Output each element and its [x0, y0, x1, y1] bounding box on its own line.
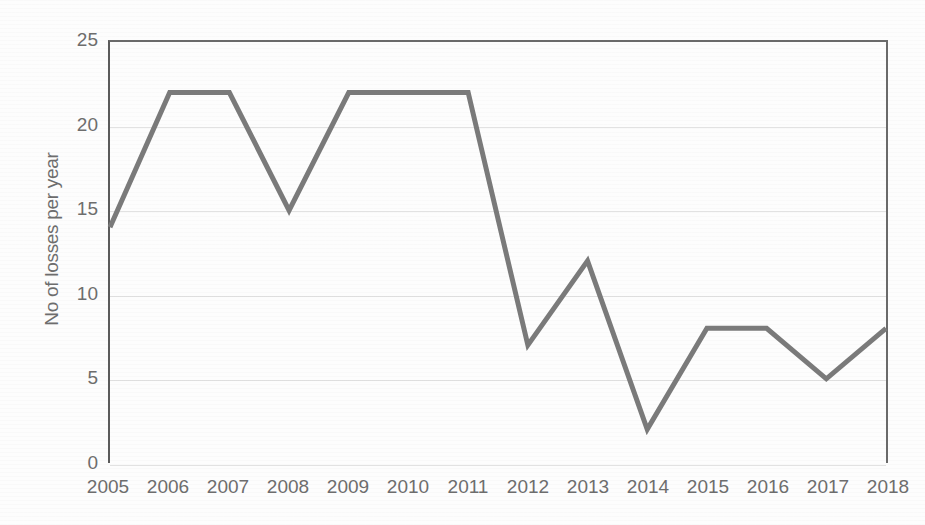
x-axis-tick-label: 2018: [853, 476, 923, 498]
gridline: [110, 465, 886, 466]
x-axis-tick-labels: 2005200620072008200920102011201220132014…: [108, 476, 888, 510]
losses-per-year-polyline: [110, 93, 886, 430]
y-axis-tick-label: 20: [52, 114, 98, 136]
data-series-line: [110, 42, 886, 463]
plot-area: [108, 40, 888, 463]
y-axis-tick-label: 5: [52, 367, 98, 389]
y-axis-tick-labels: 0510152025: [52, 40, 98, 463]
y-axis-tick-label: 0: [52, 452, 98, 474]
y-axis-tick-label: 10: [52, 283, 98, 305]
y-axis-tick-label: 15: [52, 198, 98, 220]
line-chart-figure: No of losses per year 0510152025 2005200…: [0, 0, 925, 525]
y-axis-tick-label: 25: [52, 29, 98, 51]
